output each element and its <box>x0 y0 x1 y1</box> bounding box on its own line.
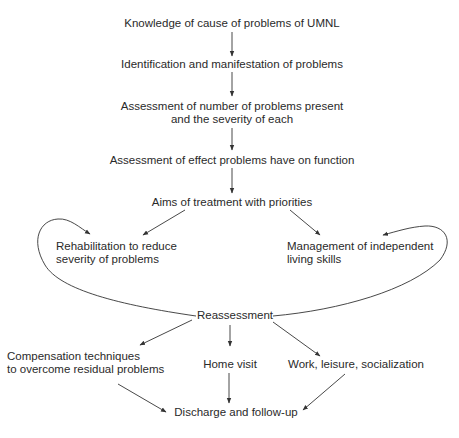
node-rehabilitation: Rehabilitation to reduce severity of pro… <box>56 240 177 266</box>
node-assessment-number-line1: Assessment of number of problems present <box>121 100 343 113</box>
node-rehabilitation-line2: severity of problems <box>56 253 177 266</box>
node-discharge: Discharge and follow-up <box>174 406 297 419</box>
node-compensation-line1: Compensation techniques <box>7 350 164 363</box>
node-assessment-effect: Assessment of effect problems have on fu… <box>110 154 355 167</box>
node-work-leisure: Work, leisure, socialization <box>288 358 424 371</box>
arrow-reassessment-to-compensation <box>140 320 192 345</box>
arrow-reassessment-to-work <box>273 322 320 356</box>
node-management-line2: living skills <box>287 253 433 266</box>
node-assessment-number-line2: and the severity of each <box>121 113 343 126</box>
node-aims: Aims of treatment with priorities <box>152 196 312 209</box>
node-knowledge: Knowledge of cause of problems of UMNL <box>124 17 339 30</box>
node-home-visit: Home visit <box>203 358 257 371</box>
node-identification: Identification and manifestation of prob… <box>121 58 343 71</box>
node-compensation-line2: to overcome residual problems <box>7 363 164 376</box>
node-management-line1: Management of independent <box>287 240 433 253</box>
arrow-aims-to-rehab <box>143 210 185 235</box>
loop-reassessment-to-rehab <box>38 219 196 316</box>
arrow-work-to-discharge <box>303 374 345 410</box>
node-rehabilitation-line1: Rehabilitation to reduce <box>56 240 177 253</box>
node-reassessment: Reassessment <box>197 309 273 322</box>
arrow-aims-to-management <box>290 210 320 235</box>
node-compensation: Compensation techniques to overcome resi… <box>7 350 164 376</box>
node-assessment-number: Assessment of number of problems present… <box>121 100 343 126</box>
arrow-compensation-to-discharge <box>118 384 166 412</box>
node-management: Management of independent living skills <box>287 240 433 266</box>
